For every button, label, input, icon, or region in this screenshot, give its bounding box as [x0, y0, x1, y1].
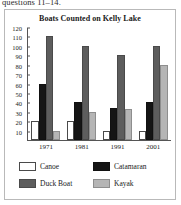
y-axis-tick-label: 90: [16, 53, 23, 60]
bar: [139, 131, 146, 140]
y-axis-tick-mark: [27, 65, 30, 66]
y-axis-tick-label: 70: [16, 72, 23, 79]
y-axis-tick-mark: [27, 112, 30, 113]
bar: [39, 84, 46, 141]
bars-layer: [28, 28, 171, 140]
y-axis-tick-mark: [27, 103, 30, 104]
bar: [153, 46, 160, 140]
y-axis-tick-mark: [27, 46, 30, 47]
y-axis-tick-label: 80: [16, 62, 23, 69]
y-axis-labels: 120110100908070605040302010: [5, 28, 26, 141]
question-stem-text: questions 11–14.: [2, 0, 61, 7]
bar-group: [28, 28, 64, 140]
x-axis-labels: 1971198119912001: [28, 143, 171, 155]
bar: [125, 109, 132, 140]
y-axis-tick-label: 100: [12, 43, 22, 50]
legend-label-canoe: Canoe: [40, 162, 59, 171]
x-axis-tick-label: 1991: [110, 143, 124, 151]
y-axis-tick-label: 10: [16, 128, 23, 135]
y-axis-tick-label: 110: [12, 34, 22, 41]
y-axis-tick-mark: [27, 93, 30, 94]
chart-figure-box: Boats Counted on Kelly Lake 120110100908…: [4, 9, 176, 200]
x-axis-tick-label: 1971: [39, 143, 53, 151]
bar: [67, 121, 74, 140]
bar-group: [135, 28, 171, 140]
y-axis-tick-mark: [27, 75, 30, 76]
legend-item-kayak: Kayak: [93, 179, 134, 188]
bar: [146, 102, 153, 140]
bar-group: [100, 28, 136, 140]
legend-item-catamaran: Catamaran: [93, 162, 146, 171]
legend-swatch-kayak-icon: [93, 179, 110, 188]
x-axis-tick-label: 1981: [75, 143, 89, 151]
legend-row-2: Duck Boat Kayak: [19, 175, 169, 192]
bar: [53, 131, 60, 140]
y-axis-tick-label: 50: [16, 90, 23, 97]
y-axis-tick-label: 60: [16, 81, 23, 88]
y-axis-tick-mark: [27, 122, 30, 123]
chart-legend: Canoe Catamaran Duck Boat Kayak: [19, 158, 169, 192]
bar: [89, 112, 96, 140]
y-axis-tick-mark: [27, 37, 30, 38]
legend-item-canoe: Canoe: [19, 162, 93, 171]
legend-label-duck-boat: Duck Boat: [40, 179, 72, 188]
y-axis-tick-label: 40: [16, 100, 23, 107]
legend-swatch-catamaran-icon: [93, 162, 110, 171]
bar: [103, 131, 110, 140]
bar: [46, 36, 53, 140]
bar-group: [64, 28, 100, 140]
y-axis-tick-label: 30: [16, 109, 23, 116]
y-axis-tick-label: 120: [12, 25, 22, 32]
y-axis-tick-mark: [27, 28, 30, 29]
chart-title: Boats Counted on Kelly Lake: [5, 14, 175, 23]
y-axis-tick-label: 20: [16, 119, 23, 126]
bar: [74, 102, 81, 140]
bar: [82, 46, 89, 140]
legend-item-duck-boat: Duck Boat: [19, 179, 93, 188]
figure-page: questions 11–14. Boats Counted on Kelly …: [0, 0, 181, 205]
legend-swatch-duck-boat-icon: [19, 179, 36, 188]
bar: [117, 55, 124, 140]
bar: [110, 108, 117, 140]
x-axis-tick-label: 2001: [146, 143, 160, 151]
y-axis-tick-mark: [27, 131, 30, 132]
bar: [160, 65, 167, 140]
legend-label-kayak: Kayak: [114, 179, 134, 188]
legend-swatch-canoe-icon: [19, 162, 36, 171]
y-axis-tick-mark: [27, 56, 30, 57]
y-axis-tick-mark: [27, 84, 30, 85]
legend-row-1: Canoe Catamaran: [19, 158, 169, 175]
bar: [31, 121, 38, 140]
legend-label-catamaran: Catamaran: [114, 162, 146, 171]
